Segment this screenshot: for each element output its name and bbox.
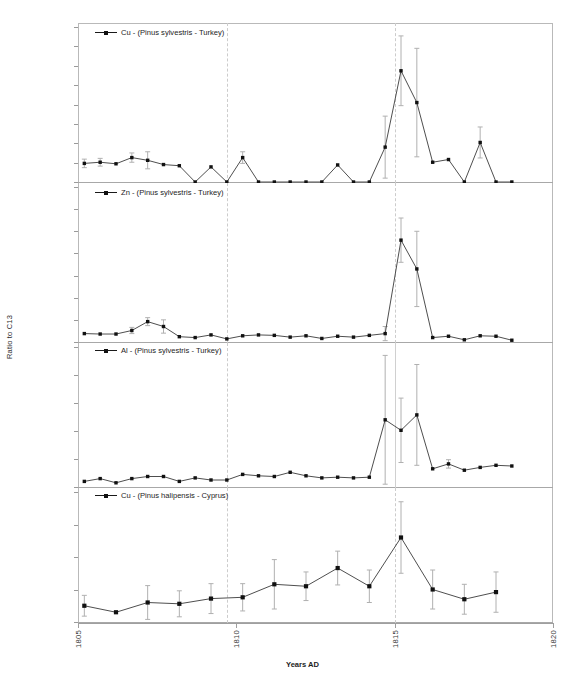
data-point-marker bbox=[447, 158, 450, 161]
data-point-marker bbox=[114, 481, 117, 484]
data-point-marker bbox=[352, 476, 355, 479]
data-point-marker bbox=[431, 467, 434, 470]
data-point-marker bbox=[494, 464, 497, 467]
legend-label: Cu - (Pinus halipensis - Cyprus) bbox=[121, 491, 228, 500]
data-point-marker bbox=[130, 329, 133, 332]
x-axis-title: Years AD bbox=[286, 660, 319, 669]
data-point-marker bbox=[415, 267, 418, 270]
data-point-marker bbox=[146, 600, 150, 604]
data-point-marker bbox=[367, 584, 371, 588]
legend-cu-turkey: Cu - (Pinus sylvestris - Turkey) bbox=[95, 28, 224, 37]
data-point-marker bbox=[193, 476, 196, 479]
panel-cu-turkey: 0.00E+005.00E-061.00E-051.50E-052.00E-05… bbox=[78, 23, 553, 183]
data-point-marker bbox=[383, 145, 386, 148]
data-point-marker bbox=[352, 335, 355, 338]
series-plot bbox=[78, 23, 553, 183]
data-point-marker bbox=[83, 332, 86, 335]
data-point-marker bbox=[162, 475, 165, 478]
data-point-marker bbox=[462, 597, 466, 601]
data-point-marker bbox=[241, 156, 244, 159]
data-point-marker bbox=[209, 478, 212, 481]
panel-zn-turkey: 0.00E+005.00E-051.00E-041.50E-042.00E-04… bbox=[78, 183, 553, 343]
data-point-marker bbox=[209, 333, 212, 336]
data-point-marker bbox=[225, 337, 228, 340]
legend-line-icon bbox=[95, 32, 104, 33]
data-point-marker bbox=[178, 335, 181, 338]
data-point-marker bbox=[82, 604, 86, 608]
legend-line-icon bbox=[108, 350, 117, 351]
data-point-marker bbox=[225, 478, 228, 481]
data-point-marker bbox=[415, 101, 418, 104]
data-point-marker bbox=[383, 418, 386, 421]
data-point-marker bbox=[130, 477, 133, 480]
data-point-marker bbox=[114, 332, 117, 335]
data-point-marker bbox=[399, 429, 402, 432]
data-point-marker bbox=[431, 161, 434, 164]
series-plot bbox=[78, 488, 553, 623]
data-point-marker bbox=[431, 336, 434, 339]
data-point-marker bbox=[273, 475, 276, 478]
x-tick-label: 1810 bbox=[232, 630, 241, 648]
data-point-marker bbox=[209, 165, 212, 168]
data-point-marker bbox=[193, 336, 196, 339]
data-point-marker bbox=[494, 590, 498, 594]
x-tick-label: 1815 bbox=[391, 630, 400, 648]
data-point-marker bbox=[478, 141, 481, 144]
data-point-marker bbox=[494, 335, 497, 338]
data-point-marker bbox=[83, 480, 86, 483]
data-point-marker bbox=[478, 334, 481, 337]
panel-cu-cyprus: 0.00E+005.00E-051.00E-041.50E-042.00E-04… bbox=[78, 488, 553, 623]
data-point-marker bbox=[98, 477, 101, 480]
data-point-marker bbox=[320, 337, 323, 340]
legend-line-icon bbox=[95, 350, 104, 351]
data-point-marker bbox=[415, 413, 418, 416]
legend-line-icon bbox=[108, 192, 117, 193]
legend-line-icon bbox=[108, 495, 117, 496]
data-point-marker bbox=[399, 238, 402, 241]
data-point-marker bbox=[162, 163, 165, 166]
legend-line-icon bbox=[95, 495, 104, 496]
x-tick-label: 1820 bbox=[549, 630, 558, 648]
series-line bbox=[84, 415, 512, 483]
legend-al-turkey: Al - (Pinus sylvestris - Turkey) bbox=[95, 346, 221, 355]
data-point-marker bbox=[288, 471, 291, 474]
data-point-marker bbox=[209, 597, 213, 601]
data-point-marker bbox=[241, 473, 244, 476]
data-point-marker bbox=[399, 69, 402, 72]
x-tick-mark bbox=[236, 623, 237, 628]
data-point-marker bbox=[336, 566, 340, 570]
data-point-marker bbox=[241, 334, 244, 337]
data-point-marker bbox=[178, 480, 181, 483]
data-point-marker bbox=[98, 332, 101, 335]
data-point-marker bbox=[162, 325, 165, 328]
data-point-marker bbox=[431, 587, 435, 591]
data-point-marker bbox=[146, 320, 149, 323]
data-point-marker bbox=[177, 602, 181, 606]
legend-label: Al - (Pinus sylvestris - Turkey) bbox=[121, 346, 221, 355]
data-point-marker bbox=[320, 476, 323, 479]
data-point-marker bbox=[146, 159, 149, 162]
legend-zn-turkey: Zn - (Pinus sylvestris - Turkey) bbox=[95, 188, 224, 197]
y-axis-label: Ratio to C13 bbox=[2, 292, 16, 382]
legend-line-icon bbox=[108, 32, 117, 33]
x-tick-label: 1805 bbox=[74, 630, 83, 648]
data-point-marker bbox=[478, 466, 481, 469]
data-point-marker bbox=[114, 610, 118, 614]
data-point-marker bbox=[257, 474, 260, 477]
data-point-marker bbox=[304, 584, 308, 588]
data-point-marker bbox=[399, 535, 403, 539]
data-point-marker bbox=[114, 162, 117, 165]
x-tick-mark bbox=[78, 623, 79, 628]
data-point-marker bbox=[130, 156, 133, 159]
data-point-marker bbox=[304, 334, 307, 337]
x-tick-mark bbox=[395, 623, 396, 628]
data-point-marker bbox=[336, 163, 339, 166]
data-point-marker bbox=[241, 595, 245, 599]
x-tick-mark bbox=[553, 623, 554, 628]
data-point-marker bbox=[272, 582, 276, 586]
data-point-marker bbox=[336, 335, 339, 338]
series-plot bbox=[78, 343, 553, 488]
legend-line-icon bbox=[95, 192, 104, 193]
data-point-marker bbox=[83, 162, 86, 165]
legend-label: Cu - (Pinus sylvestris - Turkey) bbox=[121, 28, 224, 37]
